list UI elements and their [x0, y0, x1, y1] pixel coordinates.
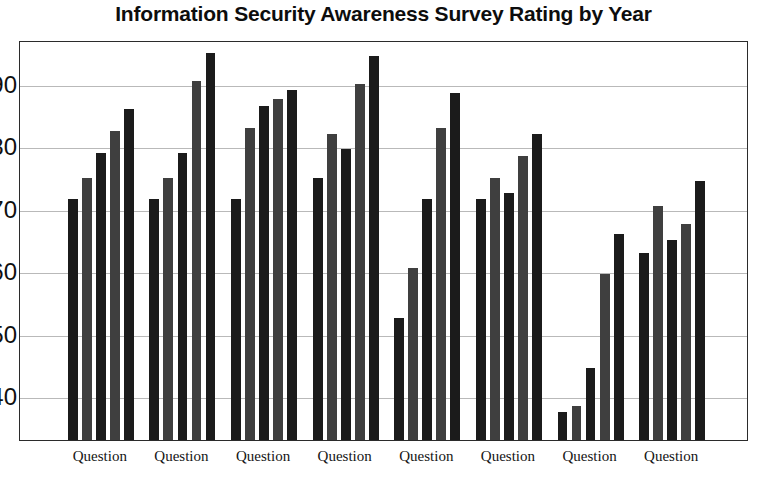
bar [369, 56, 379, 440]
bar [518, 156, 528, 440]
x-axis-tick-label: Question [236, 448, 290, 465]
bar [82, 178, 92, 441]
bar [639, 253, 649, 441]
y-axis-tick-label: 40 [0, 383, 17, 411]
bar [206, 53, 216, 441]
bar [408, 268, 418, 440]
bar [667, 240, 677, 440]
bar [163, 178, 173, 441]
bar [558, 412, 568, 440]
bar [259, 106, 269, 440]
bar [504, 193, 514, 440]
bar [355, 84, 365, 440]
plot-area [19, 41, 748, 441]
bar [149, 199, 159, 440]
y-axis: 405060708090 [0, 41, 19, 441]
x-axis-tick-label: Question [73, 448, 127, 465]
bar [586, 368, 596, 440]
bar [450, 93, 460, 440]
bar [572, 406, 582, 440]
bar [231, 199, 241, 440]
bar [124, 109, 134, 440]
x-axis-tick-label: Question [399, 448, 453, 465]
bars-container [20, 42, 747, 440]
bar [313, 178, 323, 441]
bar [490, 178, 500, 441]
page-title: Information Security Awareness Survey Ra… [0, 2, 767, 26]
bar [341, 149, 351, 440]
bar [532, 134, 542, 440]
bar [327, 134, 337, 440]
bar [681, 224, 691, 440]
bar [476, 199, 486, 440]
bar [192, 81, 202, 440]
bar [653, 206, 663, 440]
bar [600, 274, 610, 440]
x-axis-tick-label: Question [481, 448, 535, 465]
bar [394, 318, 404, 440]
bar [68, 199, 78, 440]
bar [273, 99, 283, 440]
y-axis-tick-label: 60 [0, 258, 17, 286]
x-axis-tick-label: Question [154, 448, 208, 465]
x-axis-tick-label: Question [562, 448, 616, 465]
bar [695, 181, 705, 440]
bar [245, 128, 255, 441]
x-axis-tick-label: Question [644, 448, 698, 465]
bar [436, 128, 446, 441]
y-axis-tick-label: 90 [0, 71, 17, 99]
bar [614, 234, 624, 440]
bar [422, 199, 432, 440]
bar [110, 131, 120, 440]
bar [287, 90, 297, 440]
y-axis-tick-label: 80 [0, 133, 17, 161]
bar [96, 153, 106, 441]
y-axis-tick-label: 50 [0, 321, 17, 349]
bar [178, 153, 188, 441]
y-axis-tick-label: 70 [0, 196, 17, 224]
x-axis-tick-label: Question [318, 448, 372, 465]
x-axis: QuestionQuestionQuestionQuestionQuestion… [19, 448, 748, 488]
